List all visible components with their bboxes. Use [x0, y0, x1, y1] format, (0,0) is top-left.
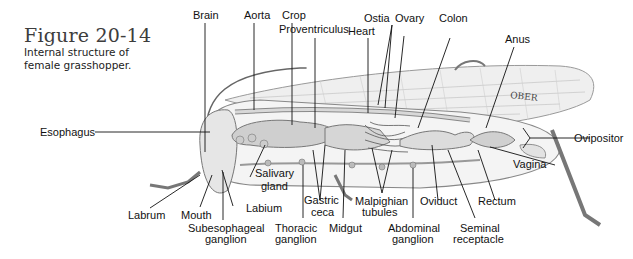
label-rectum: Rectum — [478, 195, 516, 207]
label-subesophageal-2: ganglion — [205, 233, 247, 245]
label-heart: Heart — [348, 25, 375, 37]
label-ovary: Ovary — [395, 12, 425, 24]
label-midgut: Midgut — [329, 222, 362, 234]
label-thoracic-2: ganglion — [275, 233, 317, 245]
label-brain: Brain — [193, 9, 219, 21]
label-aorta: Aorta — [244, 9, 271, 21]
label-gastric-2: ceca — [311, 206, 335, 218]
label-malpighian-2: tubules — [362, 206, 398, 218]
label-vagina: Vagina — [513, 158, 547, 170]
grasshopper-diagram: OBER — [0, 0, 633, 259]
label-abdominal-2: ganglion — [392, 233, 434, 245]
label-colon: Colon — [439, 12, 468, 24]
label-salivary-1: Salivary — [255, 167, 295, 179]
label-anus: Anus — [505, 33, 531, 45]
label-proventriculus: Proventriculus — [279, 23, 349, 35]
label-gastric-1: Gastric — [304, 194, 339, 206]
label-seminal-2: receptacle — [453, 233, 504, 245]
label-mouth: Mouth — [181, 209, 212, 221]
label-oviduct: Oviduct — [420, 195, 457, 207]
label-salivary-2: gland — [261, 180, 288, 192]
label-crop: Crop — [282, 9, 306, 21]
label-labium: Labium — [246, 202, 282, 214]
label-ovipositor: Ovipositor — [574, 132, 624, 144]
label-ostia: Ostia — [364, 12, 391, 24]
label-labrum: Labrum — [128, 209, 165, 221]
label-esophagus: Esophagus — [40, 126, 96, 138]
